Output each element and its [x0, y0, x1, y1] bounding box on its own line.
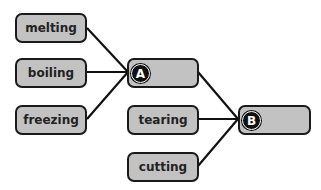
edge-melting-a: [87, 28, 128, 72]
badge-letter: B: [247, 114, 256, 128]
box-label: cutting: [139, 160, 187, 174]
box-boiling: boiling: [15, 58, 87, 88]
badge-b: B: [242, 111, 261, 130]
box-label: melting: [25, 21, 77, 35]
box-cutting: cutting: [127, 152, 199, 182]
edge-a-b: [198, 72, 238, 119]
box-melting: melting: [15, 13, 87, 43]
box-label: boiling: [28, 66, 74, 80]
edge-freezing-a: [87, 72, 128, 119]
edge-cutting-b: [198, 119, 238, 166]
box-label: tearing: [138, 113, 187, 127]
box-label: freezing: [23, 113, 79, 127]
box-tearing: tearing: [127, 105, 199, 135]
box-freezing: freezing: [15, 105, 87, 135]
badge-letter: A: [136, 67, 145, 81]
badge-a: A: [131, 64, 150, 83]
